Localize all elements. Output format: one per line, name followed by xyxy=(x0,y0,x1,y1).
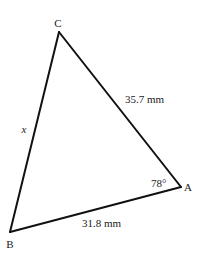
triangle-diagram: C A B 35.7 mm 31.8 mm x 78° xyxy=(0,0,202,276)
side-bc xyxy=(10,32,59,232)
vertex-label-b: B xyxy=(6,238,13,250)
vertex-label-a: A xyxy=(184,181,192,193)
side-ca xyxy=(59,32,181,187)
vertex-label-c: C xyxy=(54,17,61,29)
side-label-ab: 31.8 mm xyxy=(82,217,122,229)
angle-label-a: 78° xyxy=(151,177,166,189)
side-label-bc: x xyxy=(21,123,27,135)
side-label-ca: 35.7 mm xyxy=(125,93,165,105)
